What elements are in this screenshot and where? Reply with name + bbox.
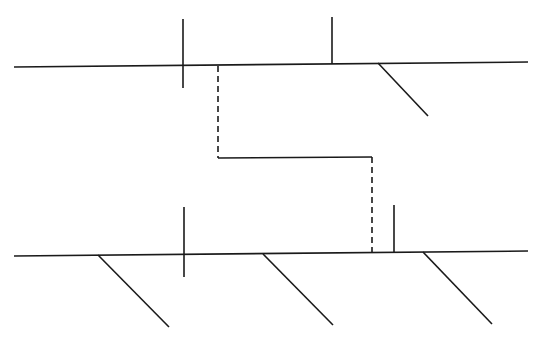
bottom-horizontal-line [14, 251, 528, 256]
bottom-diagonal-branch-1 [98, 255, 169, 327]
top-diagonal-branch [378, 63, 428, 116]
bottom-diagonal-branch-3 [423, 252, 492, 324]
connector-solid-middle [218, 157, 372, 158]
bottom-diagonal-branch-2 [263, 254, 333, 325]
diagram-canvas [0, 0, 543, 348]
top-horizontal-line [14, 62, 528, 67]
line-diagram [0, 0, 543, 348]
